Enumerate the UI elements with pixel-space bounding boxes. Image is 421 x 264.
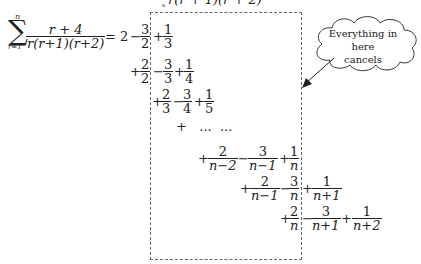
frac-3-2: 32 bbox=[140, 23, 150, 50]
sum-fraction: r + 4 r(r+1)(r+2) bbox=[26, 23, 105, 50]
frac-3-n: 3n bbox=[289, 175, 299, 202]
plus: + bbox=[341, 212, 352, 225]
frac-1-n: 1n bbox=[289, 145, 299, 172]
sum-symbol: ∑ bbox=[8, 17, 28, 45]
frac-3-3: 33 bbox=[163, 58, 173, 85]
frac-1-np1: 1n+1 bbox=[312, 175, 342, 202]
callout-line-2: cancels bbox=[318, 53, 408, 66]
frac-2-3: 23 bbox=[161, 88, 171, 115]
frac-1-5: 15 bbox=[204, 88, 214, 115]
frac-2-2: 22 bbox=[140, 58, 150, 85]
equals-sign: = bbox=[105, 30, 116, 43]
frac-2-n: 2n bbox=[289, 205, 299, 232]
frac-3-nm1: 3n−1 bbox=[248, 145, 278, 172]
frac-3-4: 34 bbox=[182, 88, 192, 115]
tiny-n-mark: n bbox=[162, 2, 165, 8]
frac-1-np2: 1n+2 bbox=[352, 205, 382, 232]
frac-2-nm1: 2n−1 bbox=[250, 175, 280, 202]
frac-2-nm2: 2n−2 bbox=[208, 145, 238, 172]
sum-lower: r=1 bbox=[8, 43, 22, 51]
term-2: 2 bbox=[120, 30, 128, 43]
callout-text: Everything in here cancels bbox=[318, 27, 408, 66]
frac-1-4: 14 bbox=[184, 58, 194, 85]
callout-line-1: Everything in here bbox=[318, 27, 408, 53]
frac-3-np1: 3n+1 bbox=[311, 205, 341, 232]
clipped-expression-top: r(r + 1)(r + 2) bbox=[168, 0, 262, 7]
frac-1-3: 13 bbox=[163, 23, 173, 50]
sum-upper: n bbox=[15, 12, 20, 21]
ellipsis-line: + ... ... bbox=[176, 120, 232, 133]
